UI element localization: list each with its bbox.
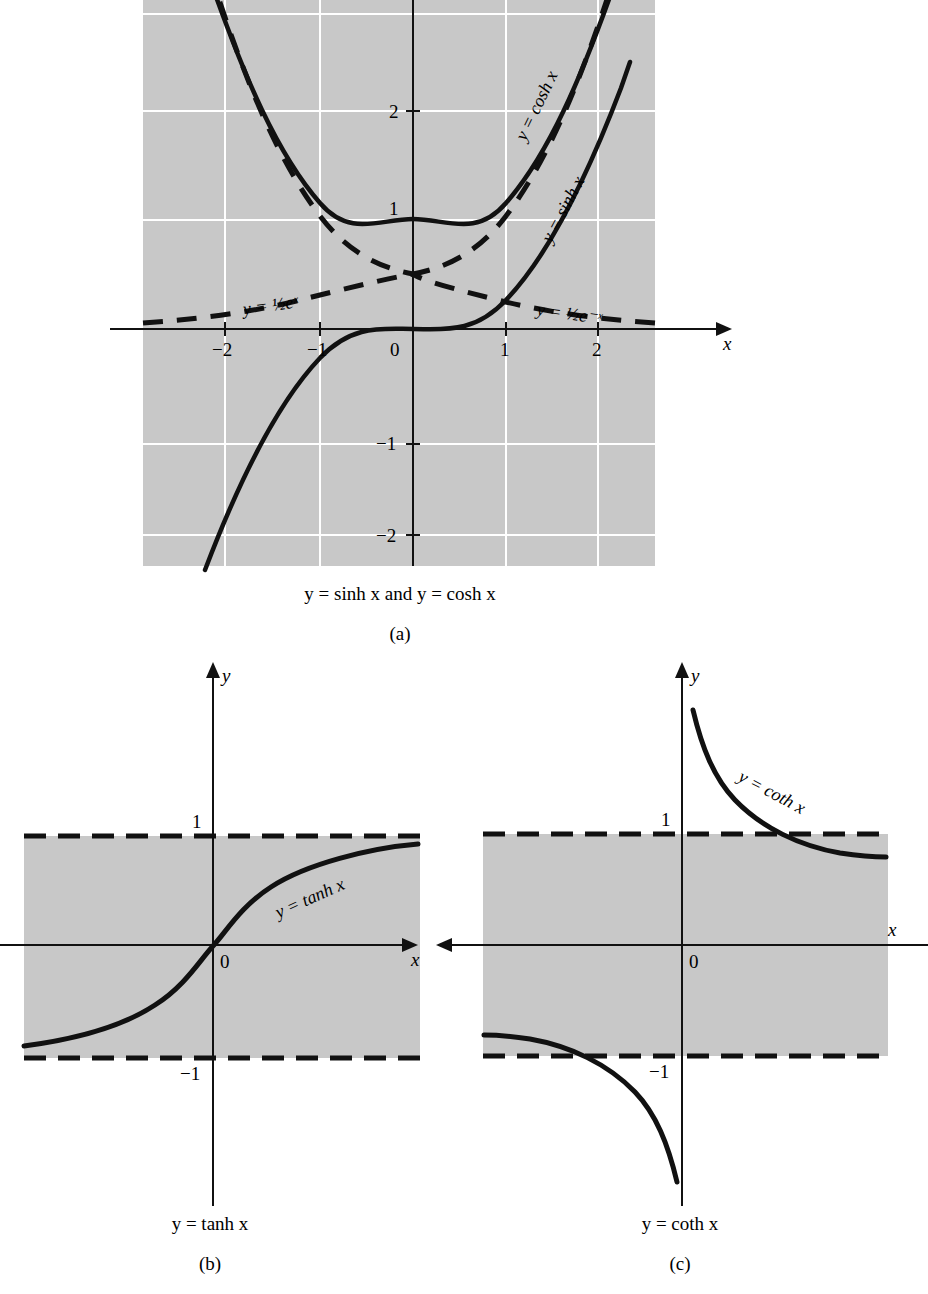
x-axis-b (0, 944, 404, 946)
y-tick-label-c-upper: 1 (661, 810, 671, 829)
y-axis-c (681, 676, 683, 1206)
figure-page: { "figure": { "panels": [ { "id": "a", "… (0, 0, 928, 1294)
y-axis-b (212, 676, 214, 1206)
x-axis-arrow-left-c (436, 938, 452, 952)
asymptotes-b (0, 0, 470, 1294)
x-axis-c (452, 944, 928, 946)
y-axis-label-b: y (222, 666, 230, 685)
panel-label-b: (b) (60, 1254, 360, 1273)
y-tick-label-b-lower: −1 (180, 1064, 200, 1083)
asymptotes-c (440, 0, 928, 1294)
caption-b: y = tanh x (60, 1214, 360, 1233)
x-axis-label-c: x (888, 920, 896, 939)
y-axis-label-c: y (691, 666, 699, 685)
curve-coth-negative (484, 1035, 677, 1182)
panel-c-coth: y x 1 −1 0 y = coth x y = coth x (c) (440, 0, 928, 1294)
origin-label-b: 0 (220, 952, 230, 971)
y-axis-arrow-b (206, 662, 220, 678)
panel-b-tanh: y x 1 −1 0 y = tanh x y = tanh x (b) (0, 0, 470, 1294)
panel-label-c: (c) (530, 1254, 830, 1273)
y-tick-label-b-upper: 1 (192, 812, 202, 831)
y-axis-arrow-c (675, 662, 689, 678)
x-axis-label-b: x (411, 950, 419, 969)
y-tick-label-c-lower: −1 (649, 1062, 669, 1081)
origin-label-c: 0 (689, 952, 699, 971)
caption-c: y = coth x (530, 1214, 830, 1233)
